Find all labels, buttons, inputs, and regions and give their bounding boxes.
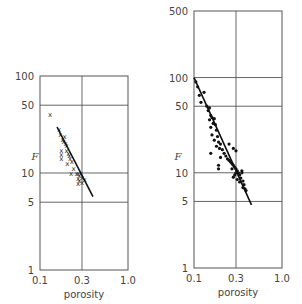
x-marker: x [48, 111, 52, 119]
y-axis-label: F [174, 151, 183, 162]
x-marker: x [59, 155, 63, 163]
dot-marker [227, 143, 230, 146]
x-tick-label: 0.1 [32, 275, 48, 286]
y-tick-label: 50 [175, 101, 188, 112]
dot-marker [232, 176, 235, 179]
fit-line [194, 78, 251, 205]
dot-marker [209, 152, 212, 155]
dot-marker [219, 156, 222, 159]
x-tick-label: 0.1 [186, 273, 202, 284]
dot-marker [217, 164, 220, 167]
chart-canvas: 1510501000.10.31.0porosityFxxxxxxxxxxxxx… [0, 0, 302, 304]
x-tick-label: 0.3 [74, 275, 90, 286]
y-tick-label: 10 [175, 168, 188, 179]
dot-marker [223, 152, 226, 155]
y-tick-label: 50 [21, 100, 34, 111]
x-axis-label: porosity [64, 289, 104, 300]
dot-marker [198, 94, 201, 97]
dot-marker [218, 147, 221, 150]
x-tick-label: 0.3 [228, 273, 244, 284]
y-tick-label: 500 [169, 6, 188, 17]
y-axis-label: F [31, 151, 40, 162]
dot-marker [217, 167, 220, 170]
dot-marker [202, 91, 205, 94]
dot-marker [199, 101, 202, 104]
dot-marker [215, 145, 218, 148]
y-tick-label: 100 [15, 71, 34, 82]
y-tick-label: 100 [169, 73, 188, 84]
dot-marker [219, 143, 222, 146]
y-tick-label: 5 [28, 197, 34, 208]
dot-marker [230, 167, 233, 170]
x-marker: x [65, 160, 69, 168]
plot-frame [194, 11, 282, 268]
left-plot: 1510501000.10.31.0porosityFxxxxxxxxxxxxx… [15, 71, 136, 300]
dot-marker [209, 126, 212, 129]
dot-marker [234, 149, 237, 152]
right-plot: 1510501005000.10.31.0porosityF [169, 6, 290, 298]
dot-marker [236, 178, 239, 181]
dot-marker [208, 118, 211, 121]
x-tick-label: 1.0 [274, 273, 290, 284]
x-axis-label: porosity [218, 287, 258, 298]
dot-marker [216, 135, 219, 138]
x-tick-label: 1.0 [120, 275, 136, 286]
dot-marker [210, 133, 213, 136]
x-marker: x [76, 180, 80, 188]
dot-marker [221, 148, 224, 151]
y-tick-label: 10 [21, 168, 34, 179]
dot-marker [240, 171, 243, 174]
dot-marker [213, 139, 216, 142]
y-tick-label: 5 [182, 196, 188, 207]
dot-marker [232, 147, 235, 150]
dot-marker [224, 154, 227, 157]
x-marker: x [69, 170, 73, 178]
